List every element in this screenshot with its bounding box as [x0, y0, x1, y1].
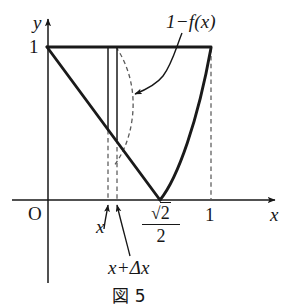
figure-caption: 図 5 — [112, 288, 146, 305]
ordinate-lines — [108, 48, 117, 140]
radicand: 2 — [160, 202, 171, 223]
x-plus-delta-pointer-arrow — [117, 205, 130, 256]
v-curve-left-branch — [47, 47, 160, 200]
y-axis-label: y — [33, 13, 42, 32]
dashed-guide-lines — [108, 48, 211, 200]
x-tick-label-sqrt-two-over-two: √2 2 — [138, 204, 184, 245]
fraction-numerator: √2 — [138, 204, 184, 223]
fraction-bar — [142, 224, 180, 225]
figure-container: y 1 O x 1 x 1−f(x) x+Δx √2 2 図 5 — [0, 0, 284, 305]
origin-label: O — [28, 204, 42, 223]
curve-function-label: 1−f(x) — [166, 12, 216, 31]
y-tick-label-one: 1 — [29, 37, 39, 56]
fraction-denominator: 2 — [138, 226, 184, 245]
solid-outline — [47, 47, 211, 200]
radical-sign-group: √2 — [151, 203, 170, 223]
curve-label-pointer-arrow — [135, 33, 182, 94]
x-point-label: x — [96, 217, 105, 236]
x-tick-label-one: 1 — [205, 205, 215, 224]
x-plus-delta-label: x+Δx — [108, 258, 150, 277]
x-axis-label: x — [270, 205, 279, 224]
v-curve-right-branch — [160, 48, 211, 200]
